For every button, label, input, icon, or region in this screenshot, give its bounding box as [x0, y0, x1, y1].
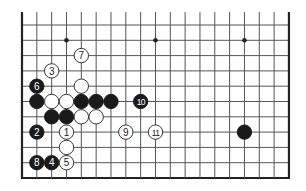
black-stone — [44, 110, 58, 124]
star-point — [64, 38, 69, 43]
black-stone-10: 10 — [133, 94, 147, 108]
black-stone-8: 8 — [30, 156, 44, 170]
black-stone-2: 2 — [30, 125, 44, 139]
move-number-label: 8 — [34, 157, 40, 168]
move-number-label: 6 — [34, 81, 40, 92]
black-stone — [237, 125, 251, 139]
white-stone — [59, 94, 73, 108]
white-stone-9: 9 — [119, 125, 133, 139]
move-number-label: 11 — [152, 128, 160, 138]
white-stone-5: 5 — [59, 156, 73, 170]
move-number-label: 1 — [64, 127, 70, 138]
white-stone-7: 7 — [74, 48, 88, 62]
move-number-label: 4 — [49, 157, 55, 168]
move-number-label: 10 — [137, 97, 146, 107]
white-stone — [59, 140, 73, 154]
move-number-label: 5 — [64, 157, 70, 168]
star-point — [242, 38, 247, 43]
move-number-label: 3 — [49, 66, 55, 77]
white-stone — [89, 110, 103, 124]
white-stone — [74, 79, 88, 93]
black-stone — [74, 94, 88, 108]
move-number-label: 2 — [34, 127, 40, 138]
white-stone-3: 3 — [44, 64, 58, 78]
black-stone — [59, 110, 73, 124]
move-number-label: 7 — [79, 50, 85, 61]
star-point — [153, 38, 158, 43]
black-stone-4: 4 — [44, 156, 58, 170]
black-stone — [30, 94, 44, 108]
black-stone-6: 6 — [30, 79, 44, 93]
move-number-label: 9 — [123, 127, 129, 138]
black-stone — [89, 94, 103, 108]
white-stone — [74, 110, 88, 124]
white-stone-1: 1 — [59, 125, 73, 139]
go-board: 1234567891011 — [0, 0, 306, 191]
white-stone — [44, 94, 58, 108]
white-stone-11: 11 — [148, 125, 162, 139]
black-stone — [104, 94, 118, 108]
